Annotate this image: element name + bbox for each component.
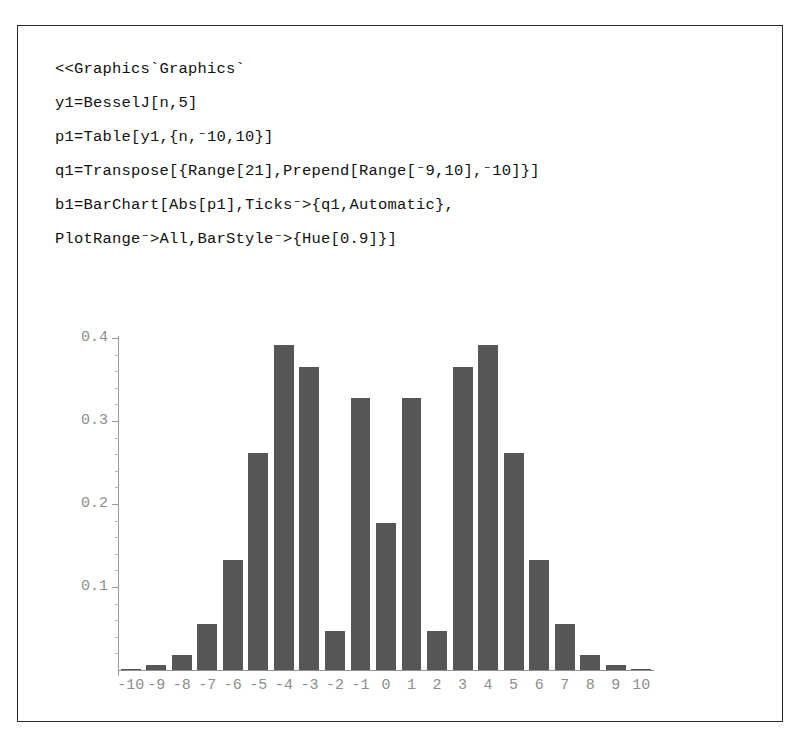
notebook-cell-frame: <<Graphics`Graphics` y1=BesselJ[n,5] p1=…: [17, 25, 783, 722]
bar-6: [529, 560, 549, 670]
bar-4: [478, 345, 498, 670]
bar-3: [453, 367, 473, 670]
bar-chart-output: 0.10.20.30.4 -10-9-8-7-6-5-4-3-2-1012345…: [18, 26, 784, 723]
bar--8: [172, 655, 192, 670]
y-axis-label-0.4: 0.4: [62, 330, 108, 345]
bar--4: [274, 345, 294, 670]
bar-1: [402, 398, 422, 670]
bar-2: [427, 631, 447, 670]
bar--10: [121, 669, 141, 670]
bar--2: [325, 631, 345, 670]
x-axis-label-10: 10: [624, 676, 658, 696]
bar--6: [223, 560, 243, 670]
y-axis-label-0.1: 0.1: [62, 579, 108, 594]
screenshot-page: <<Graphics`Graphics` y1=BesselJ[n,5] p1=…: [0, 0, 806, 742]
bar-8: [580, 655, 600, 670]
bar--3: [299, 367, 319, 670]
bar-5: [504, 453, 524, 670]
bars-layer: [118, 336, 654, 670]
y-axis-tick-labels: 0.10.20.30.4: [56, 26, 108, 723]
bar--9: [146, 665, 166, 670]
bar--5: [248, 453, 268, 670]
x-axis-tick-labels: -10-9-8-7-6-5-4-3-2-1012345678910: [118, 676, 678, 702]
bar-0: [376, 523, 396, 670]
bar-7: [555, 624, 575, 670]
x-axis-line: [118, 670, 654, 671]
y-axis-label-0.3: 0.3: [62, 413, 108, 428]
bar--1: [351, 398, 371, 670]
bars-group: [118, 338, 654, 670]
bar-9: [606, 665, 626, 670]
bar-10: [631, 669, 651, 670]
bar--7: [197, 624, 217, 670]
y-axis-label-0.2: 0.2: [62, 496, 108, 511]
